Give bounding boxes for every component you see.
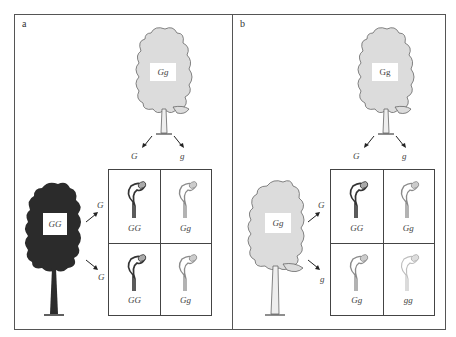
gamete-arrows-icon: [138, 134, 188, 150]
gamete-arrows-left-icon: [306, 208, 326, 278]
left-gamete-2-b: g: [320, 274, 325, 284]
panel-label-a: a: [22, 18, 26, 29]
seedling-medium-icon: [174, 253, 198, 293]
top-gamete-1-a: G: [131, 151, 138, 161]
seedling-medium-icon: [174, 180, 198, 220]
seedling-medium-icon: [396, 180, 420, 220]
left-gamete-1-a: G: [97, 200, 104, 210]
genotype-label: gg: [383, 295, 435, 305]
punnett-cell: Gg: [160, 170, 211, 243]
punnett-cell: Gg: [383, 170, 435, 243]
left-gamete-2-a: G: [98, 272, 105, 282]
top-gamete-1-b: G: [353, 151, 360, 161]
punnett-cell: GG: [109, 243, 160, 316]
seedling-pale-icon: [396, 253, 420, 293]
light-tree-icon: [355, 25, 419, 137]
seedling-dark-icon: [123, 180, 147, 220]
genotype-label: Gg: [331, 295, 383, 305]
dark-tree-icon: [22, 180, 86, 320]
punnett-grid-a: GG Gg GG Gg: [108, 169, 212, 316]
punnett-cell: gg: [383, 243, 435, 316]
punnett-cell: GG: [331, 170, 383, 243]
seedling-medium-icon: [345, 253, 369, 293]
genotype-label: GG: [331, 223, 383, 233]
top-gamete-2-a: g: [180, 151, 185, 161]
left-gamete-1-b: G: [318, 200, 325, 210]
genotype-label: GG: [109, 295, 160, 305]
gamete-arrows-left-icon: [84, 208, 104, 278]
left-tree-genotype-label-a: GG: [43, 213, 67, 235]
top-tree-genotype-label-a: Gg: [150, 63, 176, 81]
genotype-label: Gg: [383, 223, 435, 233]
top-tree-genotype-label-b: Gg: [372, 63, 398, 81]
punnett-cell: Gg: [331, 243, 383, 316]
light-tree-icon: [247, 178, 311, 320]
punnett-cell: GG: [109, 170, 160, 243]
genotype-label: Gg: [160, 223, 211, 233]
genotype-label: Gg: [160, 295, 211, 305]
genotype-label: GG: [109, 223, 160, 233]
top-gamete-2-b: g: [402, 151, 407, 161]
panel-label-b: b: [240, 18, 245, 29]
punnett-cell: Gg: [160, 243, 211, 316]
gamete-arrows-icon: [360, 134, 410, 150]
punnett-grid-b: GG Gg Gg gg: [330, 169, 435, 316]
light-tree-icon: [133, 25, 197, 137]
seedling-dark-icon: [345, 180, 369, 220]
seedling-dark-icon: [123, 253, 147, 293]
left-tree-genotype-label-b: Gg: [265, 213, 291, 233]
panel-divider: [232, 14, 233, 330]
